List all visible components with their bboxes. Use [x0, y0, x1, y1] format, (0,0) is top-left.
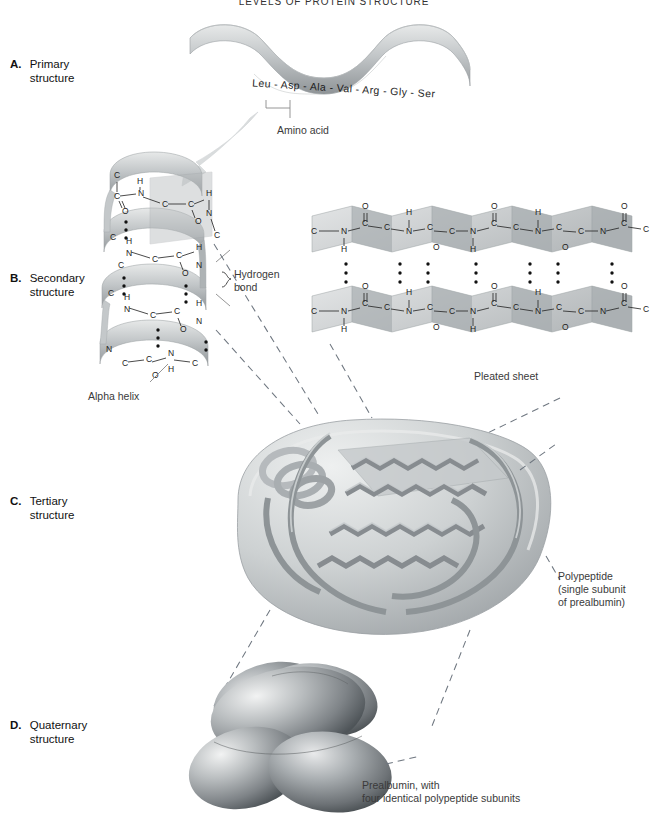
atom-c: C: [114, 170, 120, 180]
atom-n: N: [600, 306, 606, 316]
tertiary-structure-globule: [237, 419, 550, 634]
pleated-sheet-label: Pleated sheet: [474, 370, 538, 383]
dash-sheet-to-tertiary: [330, 344, 372, 418]
atom-c: C: [427, 302, 433, 312]
atom-c: C: [513, 302, 519, 312]
atom-h: H: [535, 287, 541, 297]
atom-o: O: [122, 206, 129, 216]
atom-n: N: [106, 344, 112, 354]
hbond-dot: [426, 280, 429, 283]
atom-h: H: [535, 207, 541, 217]
hbond-dot: [184, 284, 187, 287]
hbond-dot: [528, 271, 531, 274]
atom-c: C: [122, 358, 128, 368]
hbond-dot: [156, 328, 159, 331]
atom-c: C: [174, 306, 180, 316]
polypeptide-caption-line3: of prealbumin): [558, 596, 625, 608]
atom-n: N: [196, 260, 202, 270]
prealbumin-caption-line2: four identical polypeptide subunits: [362, 792, 520, 804]
atom-c: C: [578, 306, 584, 316]
atom-c: C: [643, 224, 649, 234]
figure-artwork: C C N H O C C O H N C: [0, 0, 668, 822]
hbond-dot: [474, 280, 477, 283]
amino-acid-label: Amino acid: [277, 124, 329, 137]
atom-n: N: [470, 306, 476, 316]
hbond-dot: [610, 271, 613, 274]
alpha-helix-label: Alpha helix: [88, 390, 139, 403]
atom-h: H: [406, 207, 412, 217]
hydrogen-bond-pointer: [216, 250, 230, 262]
bond: [120, 194, 136, 196]
atom-h: H: [137, 176, 143, 186]
hbond-dot: [156, 336, 159, 339]
hbond-dot: [474, 262, 477, 265]
alpha-helix-diagram: C C N H O C C O H N C: [100, 152, 231, 382]
protein-structure-figure: LEVELS OF PROTEIN STRUCTURE A. Primary s…: [0, 0, 668, 822]
atom-o: O: [562, 322, 569, 332]
hbond-dot: [122, 292, 125, 295]
atom-o: O: [362, 281, 369, 291]
hydrogen-bond-label: Hydrogen bond: [234, 268, 280, 294]
hydrogen-bond-plane: [150, 172, 212, 244]
atom-c: C: [449, 226, 455, 236]
atom-h: H: [206, 188, 212, 198]
hbond-dot: [398, 280, 401, 283]
hydrogen-bond-pointer-2: [216, 294, 230, 306]
atom-o: O: [491, 281, 498, 291]
hbond-dot: [610, 280, 613, 283]
atom-n: N: [168, 348, 174, 358]
helix-turn-3: [102, 264, 206, 310]
atom-c: C: [384, 222, 390, 232]
atom-c: C: [556, 302, 562, 312]
atom-o: O: [362, 201, 369, 211]
pleat-shade: [592, 286, 632, 332]
atom-o: O: [433, 242, 440, 252]
bond: [156, 312, 172, 314]
atom-n: N: [341, 226, 347, 236]
hbond-dot: [344, 280, 347, 283]
atom-c: C: [110, 232, 116, 242]
bond: [128, 360, 144, 362]
atom-h: H: [196, 242, 202, 252]
hbond-dot: [528, 280, 531, 283]
hbond-dot: [344, 262, 347, 265]
atom-c: C: [311, 306, 317, 316]
hbond-dot: [426, 262, 429, 265]
polypeptide-caption: Polypeptide (single subunit of prealbumi…: [558, 570, 626, 609]
atom-c: C: [311, 226, 317, 236]
bond-double: [119, 201, 122, 208]
hbond-dot: [426, 271, 429, 274]
hbond-dot: [556, 271, 559, 274]
atom-c: C: [162, 199, 168, 209]
atom-n: N: [126, 248, 132, 258]
bond: [131, 252, 150, 258]
atom-c: C: [146, 354, 152, 364]
atom-o: O: [195, 216, 202, 226]
hbond-dot: [156, 344, 159, 347]
hbond-dot: [124, 236, 127, 239]
dash-to-prealbumin-caption: [386, 756, 420, 764]
hbond-dot: [556, 280, 559, 283]
atom-c: C: [118, 260, 124, 270]
atom-n: N: [470, 226, 476, 236]
dash-tertiary-to-quaternary-2: [432, 630, 470, 726]
atom-c: C: [384, 302, 390, 312]
atom-c: C: [150, 310, 156, 320]
amino-acid-leader-bracket: [266, 100, 290, 108]
atom-c: C: [556, 222, 562, 232]
hbond-dot: [204, 348, 207, 351]
atom-o: O: [621, 201, 628, 211]
atom-h: H: [168, 364, 174, 374]
atom-c: C: [427, 222, 433, 232]
bond: [174, 360, 190, 362]
atom-n: N: [341, 306, 347, 316]
hbond-dot: [528, 262, 531, 265]
atom-c: C: [214, 230, 220, 240]
pleated-sheet-diagram: C N H C O C N H C O C N H C O C N H C O: [311, 201, 649, 334]
atom-h: H: [196, 298, 202, 308]
atom-c: C: [643, 304, 649, 314]
atom-c: C: [449, 306, 455, 316]
hbond-dot: [122, 276, 125, 279]
atom-c: C: [578, 226, 584, 236]
hydrogen-bond-brace: [222, 272, 231, 287]
